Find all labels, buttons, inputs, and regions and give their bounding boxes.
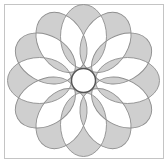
inner-circle: [72, 69, 96, 93]
rosette-svg: [0, 0, 165, 162]
rosette-figure: [0, 0, 165, 162]
